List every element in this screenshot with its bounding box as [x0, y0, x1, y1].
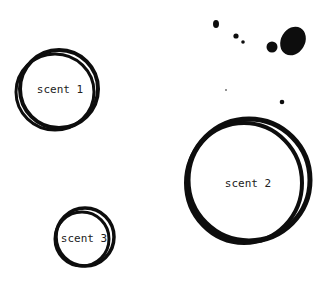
scent-label: scent 2 [225, 177, 271, 190]
scent-3-node[interactable]: scent 3 [55, 208, 114, 266]
ink-blot [275, 22, 311, 60]
ink-blot [280, 100, 285, 105]
scent-2-node[interactable]: scent 2 [186, 119, 310, 243]
ink-blot [213, 20, 219, 28]
ink-canvas: scent 1 scent 2 scent 3 [0, 0, 326, 281]
scent-label: scent 1 [37, 83, 83, 96]
ink-blot [233, 33, 238, 38]
ink-blot [267, 42, 278, 53]
scent-label: scent 3 [61, 232, 107, 245]
ink-blot [241, 40, 245, 44]
scent-1-node[interactable]: scent 1 [16, 50, 98, 130]
ink-splatter [213, 20, 311, 104]
ink-blot [225, 89, 227, 91]
